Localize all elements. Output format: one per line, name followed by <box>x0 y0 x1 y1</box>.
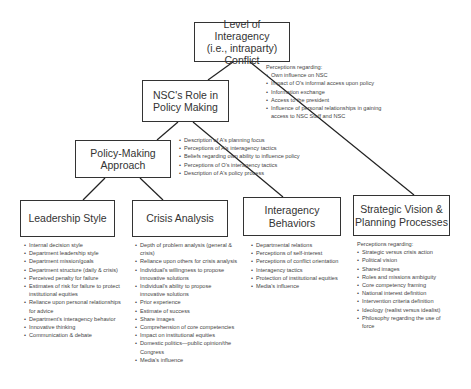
note-item: Estimate of success <box>135 307 238 315</box>
note-item: Influence of personal relationships in g… <box>266 104 399 120</box>
node-label-line1: Policy-Making <box>90 147 155 159</box>
note-item: Department structure (daily & crisis) <box>24 266 127 274</box>
note-item: Domestic politics—public opinion/the Con… <box>135 339 238 355</box>
note-item: Share images <box>135 315 238 323</box>
node-label-line1: NSC's Role in <box>153 89 218 101</box>
node-leadership-style: Leadership Style <box>20 200 115 237</box>
node-interagency-conflict: Level of Interagency (i.e., intraparty) … <box>194 22 290 62</box>
node-label-line2: Planning Processes <box>355 216 448 228</box>
connector-policy-crisis <box>140 178 163 200</box>
node-label-line1: Strategic Vision & <box>355 203 448 215</box>
note-item: Perceptions of A's interagency tactics <box>179 144 329 152</box>
note-item: Perceptions of self-interest <box>251 249 361 257</box>
note-item: Description of A's planning focus <box>179 136 329 144</box>
connector-nsc-policy <box>157 122 178 140</box>
notes-leadership-style: Internal decision style Department leade… <box>24 241 127 339</box>
node-label-line2: Policy Making <box>153 101 218 113</box>
note-item: Impact on institutional equities <box>135 331 238 339</box>
notes-strategic-vision: Perceptions regarding: Strategic versus … <box>357 240 453 330</box>
note-item: Department's interagency behavior <box>24 315 127 323</box>
node-label: Leadership Style <box>28 212 106 224</box>
node-label-line2: Approach <box>90 159 155 171</box>
note-item: Description of A's policy process <box>179 169 329 177</box>
note-item: Beliefs regarding own ability to influen… <box>179 152 329 160</box>
note-item: Information exchange <box>266 88 416 96</box>
node-crisis-analysis: Crisis Analysis <box>132 200 228 237</box>
note-item: Media's influence <box>135 356 238 364</box>
note-item: Perceived penalty for failure <box>24 274 127 282</box>
note-item: Departmental relations <box>251 241 361 249</box>
note-item: Perceptions of conflict orientation <box>251 257 361 265</box>
note-item: Reliance upon others for crisis analysis <box>135 257 238 265</box>
note-item: Individual's willingness to propose inno… <box>135 266 238 282</box>
note-item: Political vision <box>357 256 453 264</box>
note-item: Intervention criteria definition <box>357 297 453 305</box>
node-label: Interagency Behaviors <box>244 204 340 228</box>
note-item: Impact of O's informal access upon polic… <box>266 79 416 87</box>
note-item: Comprehension of core competencies <box>135 323 238 331</box>
notes-header: Perceptions regarding: <box>266 63 416 71</box>
note-item: Estimates of risk for failure to protect… <box>24 282 127 298</box>
node-label: Crisis Analysis <box>146 212 214 224</box>
connector-policy-leadership <box>83 178 105 200</box>
note-item: Depth of problem analysis (general & cri… <box>135 241 238 257</box>
note-item: Individual's ability to propose innovati… <box>135 282 238 298</box>
notes-conflict-perceptions: Perceptions regarding: Own influence on … <box>266 63 416 120</box>
note-item: Perceptions of O's interagency tactics <box>179 161 329 169</box>
note-item: Internal decision style <box>24 241 127 249</box>
note-item: Innovative thinking <box>24 323 127 331</box>
notes-policy-approach: Description of A's planning focus Percep… <box>179 136 329 177</box>
note-item: Ideology (realist versus idealist) <box>357 306 453 314</box>
node-nsc-role: NSC's Role in Policy Making <box>142 80 229 122</box>
note-item: Core competency framing <box>357 281 453 289</box>
note-item: Shared images <box>357 265 453 273</box>
note-item: Own influence on NSC <box>266 71 416 79</box>
note-item: Roles and missions ambiguity <box>357 273 453 281</box>
notes-interagency-behaviors: Departmental relations Perceptions of se… <box>251 241 361 290</box>
node-label-line1: Level of Interagency <box>195 18 289 42</box>
note-item: Prior experience <box>135 298 238 306</box>
note-item: Protection of institutional equities <box>251 274 361 282</box>
note-item: Philosophy regarding the use of force <box>357 314 453 330</box>
note-item: Access to the president <box>266 96 416 104</box>
note-item: Communication & debate <box>24 331 127 339</box>
note-item: Interagency tactics <box>251 266 361 274</box>
note-item: Strategic versus crisis action <box>357 248 453 256</box>
node-policy-making-approach: Policy-Making Approach <box>75 140 171 178</box>
note-item: Media's influence <box>251 282 361 290</box>
note-item: National interest definition <box>357 289 453 297</box>
notes-header: Perceptions regarding: <box>357 240 453 248</box>
note-item: Reliance upon personal relationships for… <box>24 298 127 314</box>
note-item: Department mission/goals <box>24 257 127 265</box>
notes-crisis-analysis: Depth of problem analysis (general & cri… <box>135 241 238 364</box>
node-strategic-vision: Strategic Vision & Planning Processes <box>353 195 450 236</box>
node-interagency-behaviors: Interagency Behaviors <box>243 197 341 236</box>
note-item: Department leadership style <box>24 249 127 257</box>
